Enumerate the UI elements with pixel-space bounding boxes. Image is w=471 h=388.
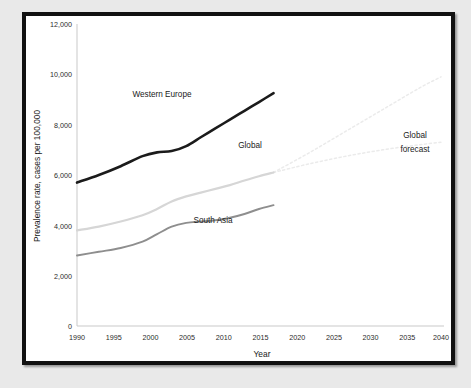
- x-tick-2025: 2025: [326, 333, 342, 342]
- series-line-western-europe: [77, 93, 274, 182]
- x-tick-1995: 1995: [106, 333, 122, 342]
- x-tick-2040: 2040: [433, 333, 449, 342]
- y-tick-8000: 8,000: [54, 121, 72, 130]
- series-label-south-asia: South Asia: [193, 216, 233, 225]
- chart-frame-border: 12,000 10,000 8,000 6,000 4,000 2,000 0 …: [22, 12, 455, 365]
- series-label-western-europe: Western Europe: [132, 90, 191, 99]
- y-tick-4000: 4,000: [54, 222, 72, 231]
- series-line-south-asia: [77, 205, 274, 255]
- x-tick-1990: 1990: [69, 333, 85, 342]
- chart-figure: 12,000 10,000 8,000 6,000 4,000 2,000 0 …: [0, 0, 471, 388]
- x-tick-2030: 2030: [363, 333, 379, 342]
- y-tick-12000: 12,000: [50, 20, 72, 29]
- x-tick-2035: 2035: [399, 333, 415, 342]
- y-axis-title: Prevalence rate, cases per 100,000: [32, 110, 42, 243]
- y-tick-10000: 10,000: [50, 70, 72, 79]
- series-label-global-forecast-line1: Global: [403, 131, 427, 140]
- y-tick-0: 0: [68, 322, 72, 331]
- x-tick-2000: 2000: [142, 333, 158, 342]
- y-tick-6000: 6,000: [54, 171, 72, 180]
- line-chart: 12,000 10,000 8,000 6,000 4,000 2,000 0 …: [26, 16, 451, 361]
- x-tick-2020: 2020: [289, 333, 305, 342]
- x-tick-2010: 2010: [216, 333, 232, 342]
- series-label-global-forecast-line2: forecast: [400, 145, 430, 154]
- series-line-global-forecast-upper: [274, 77, 441, 173]
- x-axis-title: Year: [254, 349, 271, 359]
- x-tick-2005: 2005: [179, 333, 195, 342]
- series-label-global: Global: [238, 141, 262, 150]
- y-tick-2000: 2,000: [54, 272, 72, 281]
- plot-area: 12,000 10,000 8,000 6,000 4,000 2,000 0 …: [26, 16, 451, 361]
- x-tick-2015: 2015: [253, 333, 269, 342]
- series-line-global: [77, 172, 274, 230]
